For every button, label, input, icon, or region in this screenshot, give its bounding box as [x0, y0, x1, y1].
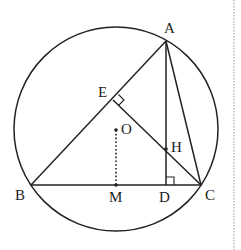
label-d: D [159, 189, 170, 205]
label-o: O [121, 121, 132, 137]
label-e: E [98, 84, 107, 100]
point-m [114, 183, 118, 187]
label-h: H [171, 139, 182, 155]
geometry-diagram: A B C D E H M O [0, 0, 241, 250]
label-a: A [164, 20, 175, 36]
segment-ac [166, 41, 201, 185]
label-b: B [15, 187, 25, 203]
right-angle-marker-e [119, 95, 125, 106]
label-m: M [109, 189, 122, 205]
point-o [114, 128, 118, 132]
right-angle-marker-d [166, 177, 174, 185]
point-h [164, 147, 168, 151]
segment-ab [31, 41, 166, 185]
label-c: C [205, 187, 215, 203]
segment-ce [113, 100, 201, 185]
